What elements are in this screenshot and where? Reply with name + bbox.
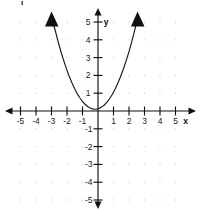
scan-speck xyxy=(22,1,23,5)
y-tick-label: -2 xyxy=(85,142,93,152)
x-tick-label: 3 xyxy=(142,116,147,126)
y-tick-label: 4 xyxy=(86,35,91,45)
x-axis xyxy=(5,107,196,114)
x-axis-label: x xyxy=(183,116,188,126)
curve-arrowheads xyxy=(45,12,145,27)
y-tick-label: 5 xyxy=(86,17,91,27)
x-tick-label: -5 xyxy=(17,116,25,126)
x-tick-label: 4 xyxy=(158,116,163,126)
coordinate-plane-svg: -5 -4 -3 -2 -1 1 2 3 4 5 5 4 3 2 1 -1 -2… xyxy=(0,0,201,210)
y-tick-label: 3 xyxy=(86,53,91,63)
x-tick-label: 1 xyxy=(111,116,116,126)
y-tick-label: -4 xyxy=(85,177,93,187)
y-axis-label: y xyxy=(104,17,109,27)
x-tick-label: 2 xyxy=(127,116,132,126)
y-tick-label: 2 xyxy=(86,70,91,80)
x-tick-label: -3 xyxy=(48,116,56,126)
y-tick-label: -1 xyxy=(85,124,93,134)
y-tick-label: -5 xyxy=(85,195,93,205)
y-tick-label: 1 xyxy=(86,88,91,98)
graph-figure: -5 -4 -3 -2 -1 1 2 3 4 5 5 4 3 2 1 -1 -2… xyxy=(0,0,201,210)
y-tick-label: -3 xyxy=(85,159,93,169)
x-tick-label: 5 xyxy=(173,116,178,126)
parabola-curve xyxy=(53,21,137,109)
x-tick-label: -4 xyxy=(32,116,40,126)
x-tick-label: -2 xyxy=(63,116,71,126)
